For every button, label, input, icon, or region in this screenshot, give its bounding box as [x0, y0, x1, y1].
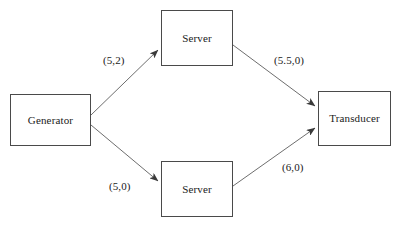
node-generator: Generator	[10, 94, 91, 146]
node-server-top: Server	[161, 10, 233, 66]
diagram-canvas: Generator Server Server Transducer (5,2)…	[0, 0, 401, 228]
node-server-bottom: Server	[161, 161, 233, 217]
node-server-top-label: Server	[182, 33, 212, 44]
edge-label-server-bottom-to-transducer: (6,0)	[282, 162, 304, 173]
node-transducer: Transducer	[318, 91, 391, 146]
edge-label-generator-to-server-top: (5,2)	[103, 55, 125, 66]
node-server-bottom-label: Server	[182, 184, 212, 195]
node-generator-label: Generator	[28, 115, 73, 126]
edge-server-bottom-to-transducer	[233, 128, 315, 186]
edge-label-server-top-to-transducer: (5.5,0)	[274, 55, 304, 66]
edge-label-generator-to-server-bottom: (5,0)	[109, 181, 131, 192]
edge-generator-to-server-bottom	[91, 125, 158, 181]
node-transducer-label: Transducer	[329, 113, 380, 124]
